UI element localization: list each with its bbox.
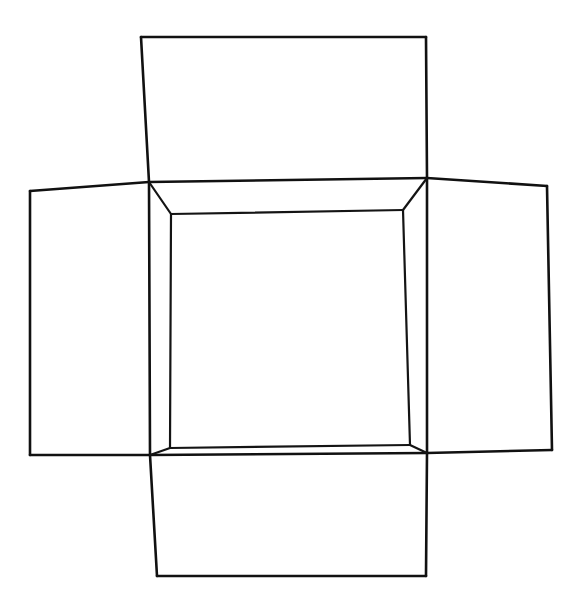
- drawing-canvas: Unfolded Cardboard Box Line Drawing Blac…: [0, 0, 584, 607]
- inner-base-fill: [170, 210, 410, 448]
- top-flap: [141, 37, 427, 182]
- right-flap: [427, 178, 552, 453]
- inner-base-square: [170, 210, 410, 448]
- bottom-flap-right-edge: [426, 453, 427, 576]
- left-flap-fold-line: [149, 182, 150, 455]
- top-flap-right-edge: [426, 37, 427, 178]
- top-flap-fill: [141, 37, 427, 182]
- right-flap-fill: [427, 178, 552, 453]
- left-flap-fill: [30, 182, 150, 455]
- left-flap: [30, 182, 150, 455]
- open-box-line-drawing: [0, 0, 584, 607]
- wall-left-edge: [170, 214, 171, 448]
- bottom-flap: [150, 453, 427, 576]
- bottom-flap-fill: [150, 453, 427, 576]
